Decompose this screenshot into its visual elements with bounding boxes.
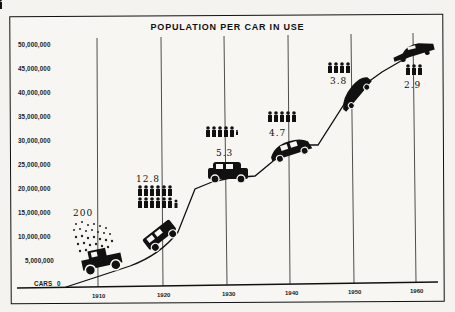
people-1960-icon bbox=[406, 64, 422, 75]
car-1940-icon bbox=[268, 135, 313, 165]
cars-in-use-line bbox=[66, 47, 425, 287]
car-1930-icon bbox=[208, 162, 248, 183]
gridlines bbox=[97, 33, 416, 287]
people-1950-icon bbox=[328, 62, 350, 73]
people-1920-row2 bbox=[138, 197, 178, 208]
people-1930-icon bbox=[206, 126, 238, 137]
chart-plot bbox=[0, 0, 455, 312]
people-1920-icon bbox=[0, 0, 2, 9]
crowd-1910-icon bbox=[73, 221, 113, 254]
people-1920-row1 bbox=[138, 185, 172, 196]
people-1940-icon bbox=[268, 111, 296, 122]
